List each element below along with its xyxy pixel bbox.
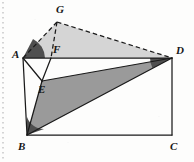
triangle-agd-light-region bbox=[23, 22, 172, 58]
vertex-label-d: D bbox=[176, 45, 184, 56]
edge-FE bbox=[42, 58, 51, 81]
vertex-label-g: G bbox=[56, 4, 64, 15]
vertex-label-b: B bbox=[18, 141, 25, 152]
edge-AE bbox=[23, 58, 42, 81]
vertex-label-c: C bbox=[170, 141, 177, 152]
vertex-label-f: F bbox=[53, 44, 60, 55]
vertex-label-e: E bbox=[38, 84, 45, 95]
edge-AB bbox=[23, 58, 27, 135]
vertex-label-a: A bbox=[12, 49, 19, 60]
geometry-figure: A B C D E F G bbox=[0, 0, 194, 162]
figure-canvas bbox=[0, 0, 194, 162]
